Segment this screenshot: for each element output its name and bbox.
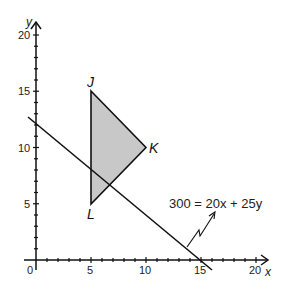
zigzag-pointer-arrow-icon [187, 212, 215, 247]
origin-label: 0 [27, 264, 33, 276]
y-tick-label-10: 10 [18, 142, 30, 154]
x-tick-label-20: 20 [249, 264, 261, 276]
vertex-label-k: K [149, 140, 159, 156]
y-axis [31, 22, 41, 270]
y-tick-label-5: 5 [24, 198, 30, 210]
x-axis-label: x [264, 265, 272, 279]
line-equation-label: 300 = 20x + 25y [169, 196, 263, 211]
vertex-label-l: L [87, 206, 95, 222]
y-tick-label-20: 20 [18, 29, 30, 41]
x-tick-label-5: 5 [87, 264, 93, 276]
y-tick-label-15: 15 [18, 85, 30, 97]
vertex-label-j: J [86, 74, 95, 90]
x-tick-label-10: 10 [139, 264, 151, 276]
triangle-jkl [91, 91, 146, 204]
x-tick-label-15: 15 [194, 264, 206, 276]
coordinate-plane-figure: 0 5 10 15 20 x 5 10 15 20 y 300 = 20x + … [0, 0, 286, 291]
y-axis-label: y [25, 15, 33, 29]
